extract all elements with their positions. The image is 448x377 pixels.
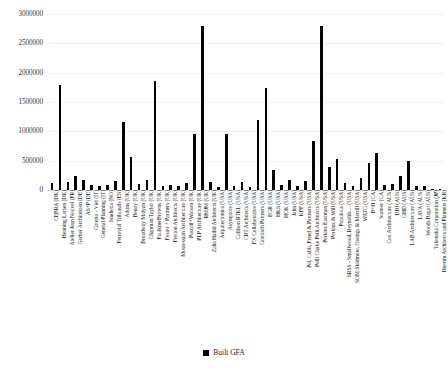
- x-axis-label: Populous (USA): [339, 190, 345, 226]
- bar: [154, 81, 157, 190]
- x-axis-label: DBI (AUS): [395, 190, 401, 216]
- x-axis-label: Woods Bagot (AUS): [426, 190, 432, 236]
- x-axis-label: Pei, Cobb, Freed & Partners (USA): [307, 190, 313, 268]
- bar-slot: [341, 14, 349, 190]
- bar-slot: [175, 14, 183, 190]
- x-axis-label: Citterio - Viel (IT): [94, 190, 100, 230]
- bar: [368, 163, 371, 190]
- bar-slot: [159, 14, 167, 190]
- bar-slot: [270, 14, 278, 190]
- bar-slot: [72, 14, 80, 190]
- bar-slot: [230, 14, 238, 190]
- x-axis-label: B+H (CA): [371, 190, 377, 213]
- bar-slot: [127, 14, 135, 190]
- x-axis-label: Foster + Partners (UK): [165, 190, 171, 240]
- x-axis-label: Heerim Architects and Planners (KR): [442, 190, 448, 272]
- bar: [82, 180, 85, 190]
- bar: [272, 170, 275, 190]
- x-axis-label: SOM Skidmore, Owings & Merrill (USA): [355, 190, 361, 283]
- bar-slot: [262, 14, 270, 190]
- x-axis-label: LAVA (AUS): [418, 190, 424, 220]
- bar: [312, 141, 315, 190]
- bar-slot: [349, 14, 357, 190]
- legend-swatch-built-gfa: [203, 350, 209, 356]
- y-tick-label: 1000000: [19, 127, 43, 135]
- bar-slot: [151, 14, 159, 190]
- x-axis-label: AS+P (DE): [86, 190, 92, 215]
- bar-slot: [191, 14, 199, 190]
- x-axis-label: Jahn (USA): [292, 190, 298, 216]
- x-axis-label: HOK (USA): [284, 190, 290, 218]
- bar-slot: [96, 14, 104, 190]
- x-axis-label: Goettsch Partners (USA): [260, 190, 266, 245]
- bar: [130, 157, 133, 190]
- bar-slot: [357, 14, 365, 190]
- y-tick-label: 500000: [22, 157, 43, 165]
- bar-series-built-gfa: [48, 14, 444, 190]
- bar: [122, 122, 125, 190]
- x-axis-category-labels: CEBRA (DK)Henning Larsen (DK)Atelier Jea…: [48, 190, 444, 336]
- x-axis-label: Snøhetta (NO): [109, 190, 115, 222]
- bar: [360, 178, 363, 190]
- x-axis-label: Stantec (CA): [379, 190, 385, 219]
- bar-slot: [111, 14, 119, 190]
- bar: [257, 120, 260, 190]
- x-axis-label: Zaha Hadid Architects (UK): [212, 190, 218, 252]
- x-axis-label: Atelier Jean Nouvel (FR): [70, 190, 76, 246]
- x-axis-label: Atkins (UK): [125, 190, 131, 218]
- bar-slot: [389, 14, 397, 190]
- plot-region: 0500000100000015000002000000250000030000…: [0, 14, 448, 190]
- x-axis-label: KPF (USA): [299, 190, 305, 216]
- bar-slot: [56, 14, 64, 190]
- bar-slot: [302, 14, 310, 190]
- bar: [407, 161, 410, 190]
- bar-slot: [246, 14, 254, 190]
- x-axis-label: Fretton Architects (UK): [173, 190, 179, 242]
- bar-slot: [373, 14, 381, 190]
- bar: [59, 85, 62, 190]
- x-axis-label: Benoy (UK): [133, 190, 139, 217]
- x-axis-label: Takenaka Corporation (JP): [434, 190, 440, 249]
- bar-slot: [436, 14, 444, 190]
- bar-slot: [397, 14, 405, 190]
- x-axis-label: Pascall+Watson (UK): [189, 190, 195, 238]
- bar: [399, 176, 402, 190]
- bar-slot: [88, 14, 96, 190]
- x-axis-label: Callison RTKL (USA): [236, 190, 242, 239]
- bar: [344, 183, 347, 190]
- x-axis-label: FX Collaborative (USA): [252, 190, 258, 244]
- x-axis-label: FaulknerBrowns (UK): [157, 190, 163, 240]
- bar-slot: [167, 14, 175, 190]
- x-axis-label: Ferrovial Tribunals (ES): [117, 190, 123, 244]
- bar-slot: [420, 14, 428, 190]
- bar-slot: [119, 14, 127, 190]
- x-axis-label: SRSS - Smallwood, Reynolds ... (USA): [347, 190, 353, 277]
- bar-slot: [199, 14, 207, 190]
- bar-slot: [80, 14, 88, 190]
- bar: [209, 182, 212, 190]
- x-axis-label: Henning Larsen (DK): [62, 190, 68, 238]
- y-tick-label: 2000000: [19, 69, 43, 77]
- x-axis-label: Asymptote (USA): [228, 190, 234, 230]
- bar: [328, 167, 331, 190]
- x-axis-label: LAB Architecture (AUS): [410, 190, 416, 245]
- chart-legend: Built GFA: [0, 348, 448, 357]
- bar: [304, 181, 307, 190]
- legend-label-built-gfa: Built GFA: [213, 348, 244, 357]
- x-axis-label: Perkins Eastman (USA): [323, 190, 329, 243]
- x-axis-label: HKS (USA): [276, 190, 282, 217]
- bar: [225, 134, 228, 190]
- bar: [265, 88, 268, 190]
- bar-slot: [135, 14, 143, 190]
- bar-slot: [143, 14, 151, 190]
- bar: [74, 176, 77, 190]
- bar-slot: [309, 14, 317, 190]
- bar: [288, 180, 291, 190]
- bar-slot: [278, 14, 286, 190]
- bar-slot: [294, 14, 302, 190]
- y-tick-label: 3000000: [19, 10, 43, 18]
- x-axis-label: CRT Architects (USA): [244, 190, 250, 240]
- bar: [320, 26, 323, 190]
- bar: [201, 26, 204, 190]
- x-axis-label: General Planning (IT): [101, 190, 107, 238]
